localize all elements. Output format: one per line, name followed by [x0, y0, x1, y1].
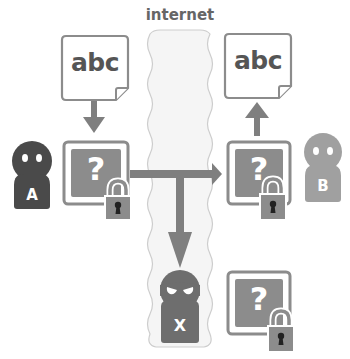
encrypt-arrow	[83, 101, 105, 133]
eavesdropper-label: X	[161, 316, 199, 335]
person-a-label: A	[14, 186, 50, 204]
internet-label: internet	[144, 6, 216, 24]
ciphertext-right: ?	[235, 150, 283, 188]
person-b-label: B	[305, 177, 341, 195]
diagram-graphics	[0, 0, 350, 359]
diagram-canvas: internet abc abc ? ? ? A B X	[0, 0, 350, 359]
ciphertext-left: ?	[71, 150, 121, 188]
plaintext-right: abc	[225, 46, 291, 75]
ciphertext-intercepted: ?	[235, 280, 283, 318]
decrypt-arrow	[245, 102, 269, 136]
plaintext-left: abc	[62, 48, 128, 77]
